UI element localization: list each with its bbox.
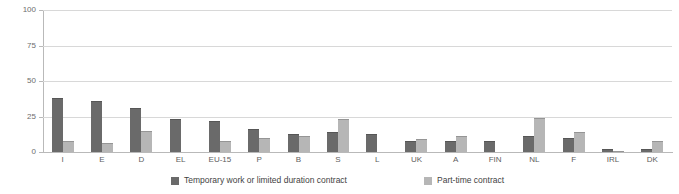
x-tick-label: L [358, 155, 397, 164]
y-tick-label-50: 50 [27, 77, 36, 85]
bar-parttime [299, 136, 310, 152]
bar-temporary [484, 141, 495, 152]
y-tick-label-100: 100 [23, 6, 36, 14]
bar-parttime [102, 143, 113, 152]
bar-temporary [130, 108, 141, 152]
bar-parttime [220, 141, 231, 152]
bar-temporary [563, 138, 574, 152]
x-tick-label: B [279, 155, 318, 164]
bar-temporary [209, 121, 220, 152]
bar-temporary [405, 141, 416, 152]
y-tick-label-0: 0 [32, 148, 36, 156]
bar-group [475, 10, 514, 152]
bar-parttime [259, 138, 270, 152]
bar-parttime [456, 136, 467, 152]
x-tick-label: I [43, 155, 82, 164]
legend-item[interactable]: Part-time contract [424, 176, 504, 185]
bar-group [554, 10, 593, 152]
x-tick-label: D [122, 155, 161, 164]
y-axis-labels: 0255075100 [0, 0, 40, 162]
y-tick-label-75: 75 [27, 42, 36, 50]
bar-group [318, 10, 357, 152]
bar-parttime [652, 141, 663, 152]
bar-parttime [63, 141, 74, 152]
legend-swatch-temp [171, 177, 179, 185]
x-tick-label: S [318, 155, 357, 164]
x-axis-labels: IEDELEU-15PBSLUKAFINNLFIRLDK [43, 155, 672, 169]
bar-group [240, 10, 279, 152]
x-axis-line [43, 152, 673, 153]
bar-parttime [338, 119, 349, 152]
bar-parttime [534, 118, 545, 152]
bar-chart: 0255075100 IEDELEU-15PBSLUKAFINNLFIRLDK … [0, 0, 679, 194]
chart-legend: Temporary work or limited duration contr… [0, 176, 679, 190]
bar-group [358, 10, 397, 152]
plot-area [43, 10, 672, 152]
x-tick-label: A [436, 155, 475, 164]
bar-group [279, 10, 318, 152]
bar-temporary [170, 119, 181, 152]
x-tick-label: IRL [593, 155, 632, 164]
bar-group [593, 10, 632, 152]
bar-group [161, 10, 200, 152]
x-tick-label: EL [161, 155, 200, 164]
bar-group [515, 10, 554, 152]
bar-parttime [574, 132, 585, 152]
bar-parttime [416, 139, 427, 152]
x-tick-label: UK [397, 155, 436, 164]
legend-swatch-part [424, 177, 432, 185]
bar-temporary [327, 132, 338, 152]
x-tick-label: F [554, 155, 593, 164]
bar-group [200, 10, 239, 152]
x-tick-label: DK [633, 155, 672, 164]
legend-item[interactable]: Temporary work or limited duration contr… [171, 176, 347, 185]
x-tick-label: E [82, 155, 121, 164]
bar-group [397, 10, 436, 152]
bar-temporary [288, 134, 299, 152]
bar-temporary [248, 129, 259, 152]
bar-temporary [366, 134, 377, 152]
bar-temporary [52, 98, 63, 152]
x-tick-label: FIN [475, 155, 514, 164]
bar-group [82, 10, 121, 152]
bar-temporary [445, 141, 456, 152]
y-tick-label-25: 25 [27, 113, 36, 121]
bar-group [122, 10, 161, 152]
x-tick-label: EU-15 [200, 155, 239, 164]
bar-temporary [523, 136, 534, 152]
bar-parttime [141, 131, 152, 152]
bar-group [633, 10, 672, 152]
bar-group [436, 10, 475, 152]
legend-label: Temporary work or limited duration contr… [184, 176, 347, 185]
legend-label: Part-time contract [437, 176, 504, 185]
x-tick-label: NL [515, 155, 554, 164]
bar-temporary [91, 101, 102, 152]
bar-group [43, 10, 82, 152]
x-tick-label: P [240, 155, 279, 164]
